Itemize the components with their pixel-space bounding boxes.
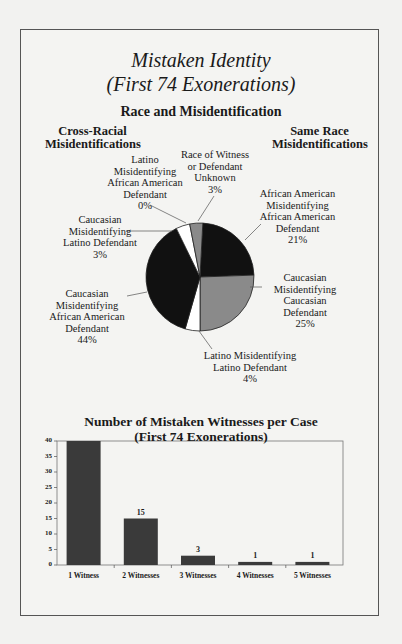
label-unknown: Race of Witnessor DefendantUnknown3% <box>175 149 255 195</box>
y-tick-label: 40 <box>38 436 52 444</box>
label-caucasian-misid-caucasian: CaucasianMisidentifyingCaucasianDefendan… <box>265 272 345 330</box>
x-tick-label: 5 Witnesses <box>282 571 342 580</box>
x-tick-label: 2 Witnesses <box>111 571 171 580</box>
bar-value-label: 1 <box>240 551 270 560</box>
label-line: Latino Defendant <box>60 237 140 249</box>
slice-cauc-cauc <box>200 275 254 331</box>
label-caucasian-misid-latino: CaucasianMisidentifyingLatino Defendant3… <box>60 214 140 260</box>
label-line: Race of Witness <box>175 149 255 161</box>
leader-line <box>199 331 212 349</box>
y-tick-label: 35 <box>38 452 52 460</box>
label-latino-misid-latino: Latino MisidentifyingLatino Defendant4% <box>200 350 300 385</box>
label-line: Misidentifying <box>47 300 127 312</box>
label-line: 25% <box>265 318 345 330</box>
label-line: African American <box>47 311 127 323</box>
bar-2 <box>124 519 158 566</box>
label-line: 3% <box>60 249 140 261</box>
y-tick-label: 20 <box>38 498 52 506</box>
label-line: Caucasian <box>265 272 345 284</box>
label-line: Unknown <box>175 172 255 184</box>
label-line: or Defendant <box>175 161 255 173</box>
bar-value-label: 3 <box>183 545 213 554</box>
y-tick-label: 25 <box>38 483 52 491</box>
label-line: Misidentifying <box>60 226 140 238</box>
x-tick-label: 3 Witnesses <box>168 571 228 580</box>
label-line: Defendant <box>255 223 340 235</box>
bar-chart-title: Number of Mistaken Witnesses per Case (F… <box>0 414 402 444</box>
bar-3 <box>181 556 215 565</box>
x-tick-label: 1 Witness <box>54 571 114 580</box>
label-caucasian-misid-aa: CaucasianMisidentifyingAfrican AmericanD… <box>47 288 127 346</box>
x-tick-label: 4 Witnesses <box>225 571 285 580</box>
y-tick-label: 5 <box>38 545 52 553</box>
label-line: Misidentifying <box>255 200 340 212</box>
label-line: Caucasian <box>47 288 127 300</box>
label-line: Caucasian <box>265 295 345 307</box>
y-tick-label: 0 <box>38 560 52 568</box>
slice-aa-aa <box>200 223 254 277</box>
bar-1 <box>67 441 101 565</box>
label-line: 0% <box>100 200 190 212</box>
y-tick-label: 10 <box>38 529 52 537</box>
label-aa-misid-aa: African AmericanMisidentifyingAfrican Am… <box>255 188 340 246</box>
label-line: 44% <box>47 334 127 346</box>
label-line: 21% <box>255 234 340 246</box>
label-line: Caucasian <box>60 214 140 226</box>
leader-line <box>127 292 147 296</box>
bar-chart-title-line1: Number of Mistaken Witnesses per Case <box>0 414 402 429</box>
bar-value-label: 1 <box>297 551 327 560</box>
bar-4 <box>238 562 272 565</box>
leader-line <box>198 196 214 221</box>
y-tick-label: 15 <box>38 514 52 522</box>
label-line: Defendant <box>265 307 345 319</box>
label-line: African American <box>255 188 340 200</box>
y-tick-label: 30 <box>38 467 52 475</box>
bar-chart-title-line2: (First 74 Exonerations) <box>0 429 402 444</box>
label-line: Latino Defendant <box>200 362 300 374</box>
bar-5 <box>295 562 329 565</box>
label-line: 4% <box>200 373 300 385</box>
label-line: Defendant <box>47 323 127 335</box>
label-line: 3% <box>175 184 255 196</box>
label-line: Latino Misidentifying <box>200 350 300 362</box>
label-line: African American <box>255 211 340 223</box>
bar-value-label: 15 <box>126 508 156 517</box>
label-line: Misidentifying <box>265 284 345 296</box>
